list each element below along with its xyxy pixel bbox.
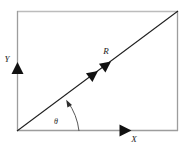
y-axis-label: Y bbox=[4, 54, 10, 64]
x-axis-label: X bbox=[130, 134, 137, 144]
vector-diagram-figure: Y R X θ bbox=[0, 0, 190, 148]
vector-diagram-canvas: Y R X θ bbox=[0, 0, 190, 148]
angle-label: θ bbox=[54, 117, 58, 126]
x-component-arrow bbox=[120, 125, 132, 137]
resultant-vector-line bbox=[17, 11, 178, 131]
resultant-arrowhead-front bbox=[99, 57, 114, 72]
y-component-arrow bbox=[12, 62, 24, 74]
resultant-arrowhead-rear bbox=[86, 67, 101, 82]
resultant-label: R bbox=[102, 46, 109, 56]
